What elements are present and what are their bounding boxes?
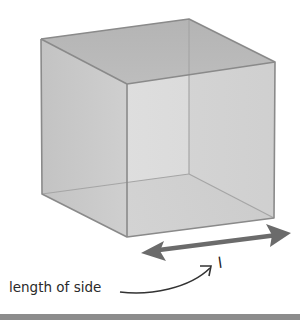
cube-front-face xyxy=(127,62,275,237)
side-caption-label: length of side xyxy=(9,279,101,295)
cube xyxy=(41,19,275,237)
footer-bar xyxy=(0,314,300,320)
cube-diagram: l length of side xyxy=(0,0,300,320)
pointer-arrow xyxy=(120,266,211,293)
side-symbol-label: l xyxy=(217,254,224,272)
